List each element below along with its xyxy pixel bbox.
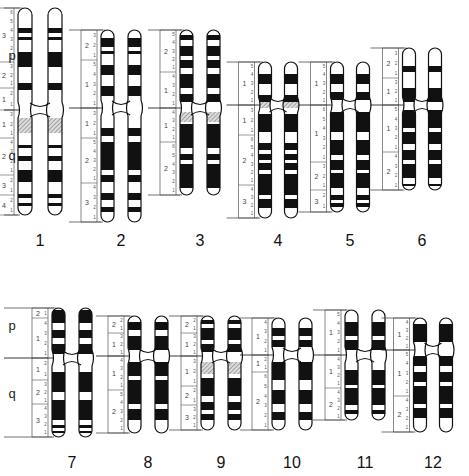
- dark-band: [206, 94, 221, 102]
- dark-band: [206, 35, 221, 40]
- band-number: 6: [323, 107, 326, 112]
- band-number: 2: [406, 380, 409, 385]
- chromatid-left: [271, 318, 286, 430]
- band-number: 4: [172, 162, 175, 167]
- dark-band: [179, 60, 194, 68]
- region-number: 1: [387, 88, 391, 95]
- band-number: 3: [93, 158, 96, 163]
- heterochromatin-band: [17, 118, 33, 133]
- chromatid-left: [179, 30, 194, 195]
- band-number: 3: [395, 164, 398, 169]
- band-number: 2: [93, 167, 96, 172]
- band-number: 3: [193, 407, 196, 412]
- band-number: 2: [337, 406, 340, 411]
- band-number: 2: [395, 89, 398, 94]
- region-number: 1: [164, 122, 168, 129]
- band-number: 2: [120, 342, 123, 347]
- dark-band: [51, 310, 66, 323]
- chromatid-left: [413, 318, 428, 432]
- dark-band: [284, 174, 299, 195]
- band-number: 5: [93, 62, 96, 67]
- band-number: 4: [395, 117, 398, 122]
- region-number: 2: [112, 321, 116, 328]
- band-number: 3: [44, 331, 47, 336]
- band-number: 1: [120, 383, 123, 388]
- region-number: 1: [85, 120, 89, 127]
- band-number: 1: [264, 423, 267, 428]
- band-number: 4: [93, 185, 96, 190]
- band-number: 1: [395, 183, 398, 188]
- band-number: 3: [93, 195, 96, 200]
- region-number: 2: [112, 408, 116, 415]
- dark-band: [200, 402, 215, 410]
- band-number: 2: [44, 361, 47, 366]
- band-number: 2: [120, 418, 123, 423]
- dark-band: [17, 52, 33, 67]
- band-number: 2: [337, 373, 340, 378]
- band-number: 5: [406, 352, 409, 357]
- band-number: 1: [93, 53, 96, 58]
- dark-band: [298, 340, 313, 347]
- band-number: 4: [172, 40, 175, 45]
- dark-band: [402, 110, 417, 128]
- dark-band: [284, 154, 299, 160]
- region-number: 1: [329, 329, 333, 336]
- chromatid-right: [127, 30, 143, 222]
- band-number: 1: [323, 98, 326, 103]
- dark-band: [439, 372, 454, 382]
- band-number: 5: [120, 392, 123, 397]
- dark-band: [206, 154, 221, 160]
- dark-band: [51, 330, 66, 338]
- chromosome-6: 21231123112345212346: [371, 48, 444, 249]
- region-number: 2: [387, 60, 391, 67]
- dark-band: [258, 114, 273, 132]
- dark-band: [402, 184, 417, 186]
- region-number: 3: [243, 198, 247, 205]
- karyogram-diagram: 31234562123112112321234312412pq121231123…: [0, 0, 469, 476]
- band-number: 1: [323, 204, 326, 209]
- band-number: 2: [251, 90, 254, 95]
- band-number: 6: [264, 374, 267, 379]
- band-number: 4: [337, 390, 340, 395]
- dark-band: [47, 37, 63, 40]
- band-number: 2: [323, 90, 326, 95]
- arm-label-q: q: [8, 386, 15, 401]
- arm-label-q: q: [8, 148, 15, 163]
- region-number: 1: [398, 370, 402, 377]
- band-number: 2: [337, 339, 340, 344]
- region-number: 1: [36, 366, 40, 373]
- chromatid-left: [127, 316, 142, 433]
- band-number: 4: [44, 406, 47, 411]
- chromosome-number-label: 7: [68, 454, 77, 471]
- band-number: 1: [44, 351, 47, 356]
- band-number: 4: [251, 187, 254, 192]
- band-number: 5: [337, 312, 340, 317]
- dark-band: [127, 322, 142, 330]
- chromatid-left: [402, 48, 417, 190]
- band-number: 5: [323, 64, 326, 69]
- dark-band: [17, 28, 33, 33]
- band-number: 3: [93, 33, 96, 38]
- band-number: 2: [323, 174, 326, 179]
- region-number: 1: [164, 87, 168, 94]
- band-number: 2: [10, 198, 13, 203]
- chromatid-left: [258, 62, 273, 218]
- region-number: 3: [185, 414, 189, 421]
- dark-band: [428, 150, 443, 160]
- band-number: 3: [10, 112, 13, 117]
- dark-band: [51, 400, 66, 420]
- chromosome-number-label: 9: [217, 454, 226, 471]
- band-number: 1: [406, 344, 409, 349]
- band-number: 2: [10, 91, 13, 96]
- chromosome-1: 31234562123112112321234312412pq1: [0, 8, 64, 249]
- dark-band: [127, 128, 142, 136]
- dark-band: [402, 132, 417, 144]
- dark-band: [258, 174, 273, 195]
- chromosome-5: 112345112345621233125: [299, 62, 372, 249]
- chromosome-number-label: 1: [36, 232, 45, 249]
- chromosome-11: 112345112342123411: [313, 310, 387, 471]
- band-number: 5: [323, 117, 326, 122]
- chromosome-number-label: 3: [196, 232, 205, 249]
- band-number: 4: [120, 400, 123, 405]
- band-number: 2: [395, 135, 398, 140]
